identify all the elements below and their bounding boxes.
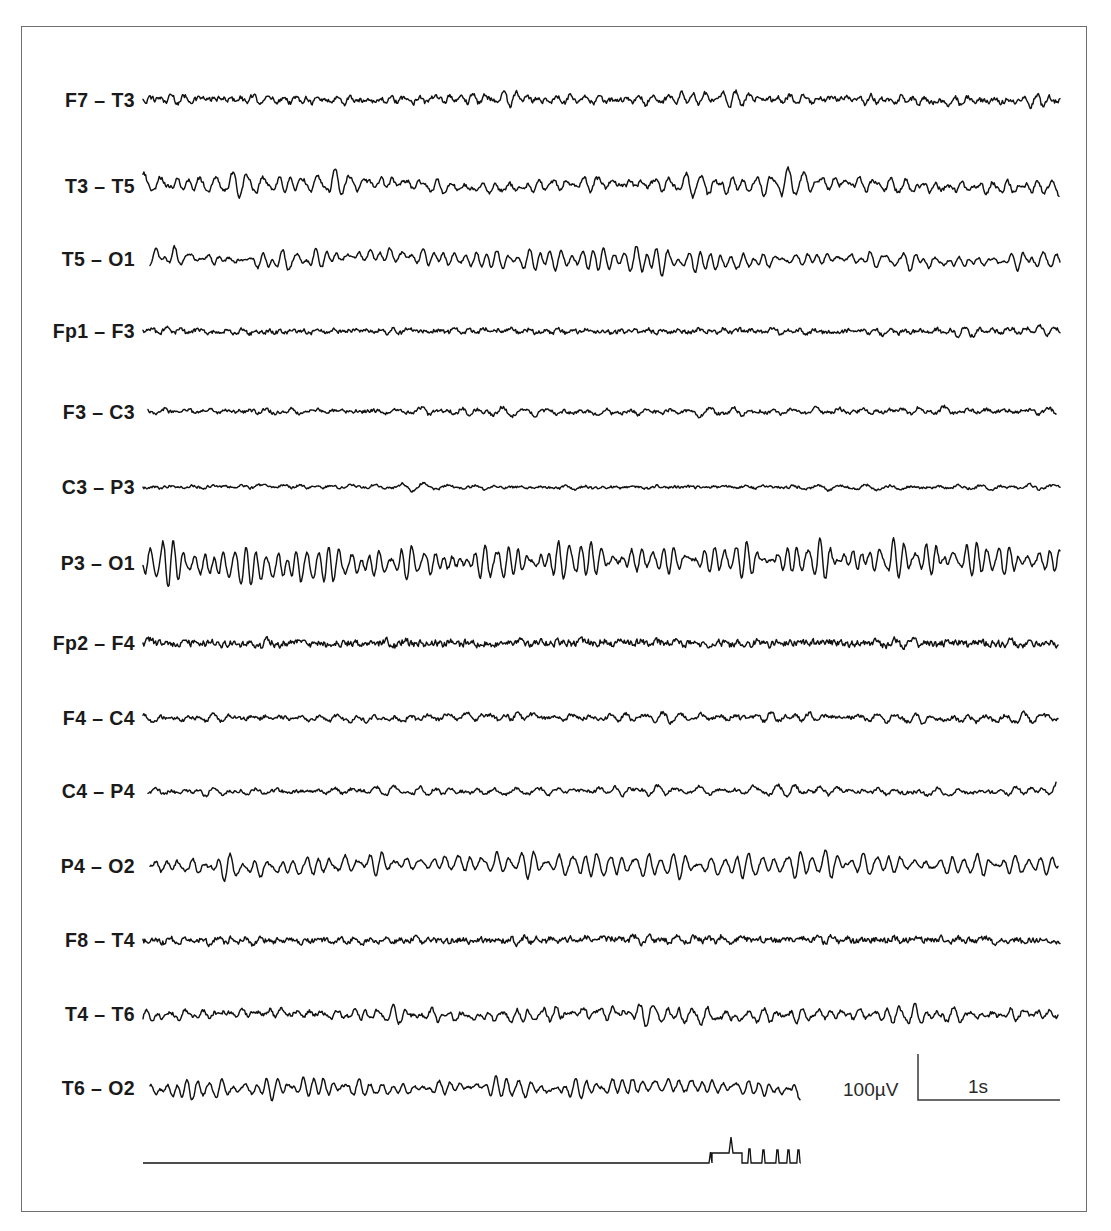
channel-label-f4-c4: F4 – C4	[63, 707, 135, 730]
figure-frame	[21, 26, 1087, 1212]
channel-label-t4-t6: T4 – T6	[65, 1003, 135, 1026]
scale-bar-amplitude-label: 100µV	[843, 1079, 898, 1101]
channel-label-t3-t5: T3 – T5	[65, 175, 135, 198]
channel-label-c3-p3: C3 – P3	[62, 476, 135, 499]
scale-bar-time-label: 1s	[968, 1076, 988, 1098]
channel-label-p4-o2: P4 – O2	[61, 855, 135, 878]
channel-label-t6-o2: T6 – O2	[62, 1077, 135, 1100]
channel-label-f3-c3: F3 – C3	[63, 401, 135, 424]
channel-label-fp2-f4: Fp2 – F4	[53, 632, 135, 655]
channel-label-fp1-f3: Fp1 – F3	[53, 320, 135, 343]
eeg-figure: F7 – T3T3 – T5T5 – O1Fp1 – F3F3 – C3C3 –…	[0, 0, 1111, 1231]
channel-label-p3-o1: P3 – O1	[61, 552, 135, 575]
channel-label-f8-t4: F8 – T4	[65, 929, 135, 952]
channel-label-c4-p4: C4 – P4	[62, 780, 135, 803]
channel-label-f7-t3: F7 – T3	[65, 89, 135, 112]
channel-label-t5-o1: T5 – O1	[62, 248, 135, 271]
